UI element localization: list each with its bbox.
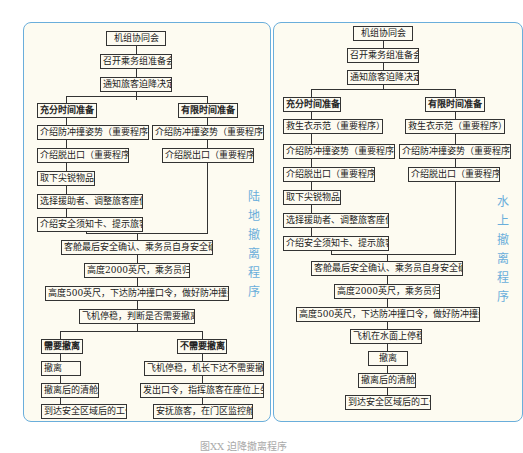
water-full-step: 取下尖锐物品 [283,190,341,205]
connector [60,331,203,332]
water-limited-step: 介绍脱出口（重要程序） [408,167,500,182]
land-limited-prep-title: 有限时间准备 [178,103,238,118]
connector [387,344,388,351]
land-full-step: 选择援助者、调整旅客座位 [37,194,143,209]
land-limited-step: 介绍防冲撞姿势（重要程序） [152,125,264,140]
water-full-step: 介绍脱出口（重要程序） [283,167,375,182]
connector [66,96,208,97]
side-char: 撤 [496,231,510,250]
connector [207,96,208,103]
connector [207,118,208,125]
land-common-step: 高度500英尺，下达防冲撞口令，做好防冲撞姿势 [45,286,229,301]
water-limited-step: 介绍防冲撞姿势（重要程序） [399,144,511,159]
connector [387,322,388,329]
water-full-prep-title: 充分时间准备 [283,97,341,112]
water-common-step: 撤离后的清舱 [358,373,416,388]
connector [66,118,67,125]
land-no-evacuate-step: 发出口令，指挥旅客在座位上坐好 [140,383,264,398]
water-full-step: 选择援助者、调整旅客座位 [283,213,389,228]
connector [66,209,67,217]
connector [202,331,203,339]
water-full-step: 救生衣示范（重要程序） [283,119,383,134]
connector [311,89,312,97]
water-limited-prep-title: 有限时间准备 [425,97,485,112]
connector [66,140,67,148]
connector [311,89,456,90]
connector [387,254,388,261]
land-no-evacuate-title: 不需要撤离 [177,339,227,354]
figure-caption: 图XX 迫降撤离程序 [200,438,287,453]
water-full-step: 介绍防冲撞姿势（重要程序） [283,144,395,159]
side-char: 程 [496,269,510,288]
connector [455,89,456,97]
land-evacuate-step: 到达安全区域后的工作 [41,404,127,419]
connector [455,134,456,144]
side-char: 地 [247,207,261,226]
side-char: 水 [496,193,510,212]
land-full-prep-title: 充分时间准备 [37,103,97,118]
water-common-step: 飞机在水面上停稳 [350,329,422,344]
connector [66,163,67,171]
side-char: 离 [247,245,261,264]
connector [331,254,456,255]
connector [311,228,312,236]
water-common-step: 到达安全区域后的工作 [345,395,431,410]
water-crew-briefing: 机组协同会 [353,26,413,41]
connector [137,278,138,286]
connector [387,366,388,373]
water-common-step: 撤离 [368,351,408,366]
side-char: 陆 [247,188,261,207]
connector [86,233,208,234]
side-char: 序 [496,288,510,307]
connector [387,276,388,284]
connector [311,159,312,167]
connector [311,134,312,144]
land-crew-briefing: 机组协同会 [106,31,166,46]
water-notify-passengers: 通知旅客迫降决定 [347,70,419,85]
land-notify-passengers: 通知旅客迫降决定 [100,77,172,92]
land-common-step: 客舱最后安全确认、乘务员自身安全确认 [61,240,213,255]
land-crew-meeting: 召开乘务组准备会 [100,54,172,69]
land-full-step: 介绍脱出口（重要程序） [37,148,129,163]
side-char: 序 [247,283,261,302]
water-full-step: 介绍安全须知卡、提示旅客 [283,236,389,251]
land-full-step: 取下尖锐物品 [37,171,95,186]
land-evacuate-title: 需要撤离 [41,339,83,354]
connector [207,140,208,148]
land-full-step: 介绍防冲撞姿势（重要程序） [37,125,149,140]
side-char: 上 [496,212,510,231]
land-side-label: 陆 地 撤 离 程 序 [247,188,261,302]
connector [66,186,67,194]
land-limited-step: 介绍脱出口（重要程序） [162,148,254,163]
connector [311,205,312,213]
land-evacuate-step: 撤离 [41,361,81,376]
connector [387,299,388,307]
water-side-label: 水 上 撤 离 程 序 [496,193,510,307]
connector [60,354,61,361]
land-full-step: 介绍安全须知卡、提示旅客 [37,217,143,232]
connector [455,159,456,167]
connector [383,41,384,48]
connector [137,233,138,240]
land-no-evacuate-step: 飞机停稳，机长下达不需要撤离 [144,361,264,376]
connector [311,182,312,190]
water-common-step: 高度500英尺，下达防冲撞口令，做好防冲撞姿势 [296,307,480,322]
land-common-step: 飞机停稳，判断是否需要撤离 [79,309,195,324]
side-char: 撤 [247,226,261,245]
land-common-step: 高度2000英尺，乘务员归位 [84,263,190,278]
connector [455,182,456,255]
side-char: 离 [496,250,510,269]
land-no-evacuate-step: 安抚旅客，在门区监控舱门 [153,404,253,419]
connector [202,376,203,383]
connector [137,301,138,309]
connector [60,376,61,383]
connector [383,63,384,70]
connector [455,112,456,119]
connector [60,331,61,339]
land-evacuate-step: 撤离后的清舱 [41,383,99,398]
water-limited-step: 救生衣示范（重要程序） [405,119,505,134]
connector [387,388,388,395]
connector [137,255,138,263]
connector [136,46,137,54]
water-common-step: 客舱最后安全确认、乘务员自身安全确认 [311,261,463,276]
